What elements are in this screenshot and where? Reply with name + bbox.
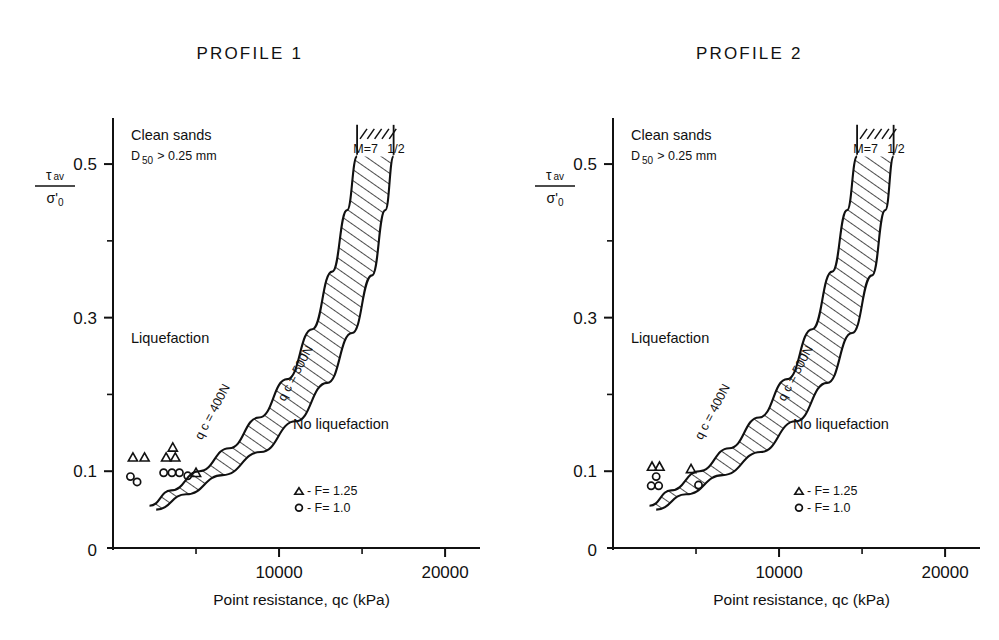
- annotation-magnitude-fraction: 1/2: [387, 142, 404, 156]
- annotation-no-liquefaction: No liquefaction: [293, 416, 389, 432]
- data-point-circle: [652, 473, 659, 480]
- legend-marker-triangle: [295, 488, 303, 495]
- legend-label: - F= 1.0: [806, 501, 849, 515]
- annotation-magnitude: M=7: [853, 142, 878, 156]
- data-point-triangle: [171, 453, 180, 461]
- x-tick-label: 20000: [421, 563, 468, 582]
- chart-svg-profile-2: 0.10.30.501000020000Point resistance, qc…: [500, 0, 999, 640]
- annotation-liquefaction: Liquefaction: [131, 330, 209, 346]
- plot-area: 0.10.30.501000020000Point resistance, qc…: [535, 116, 985, 608]
- data-point-triangle: [654, 462, 663, 470]
- x-tick-label: 10000: [255, 563, 302, 582]
- y-tick-label: 0.3: [573, 309, 597, 328]
- y-tick-label: 0.5: [573, 155, 597, 174]
- x-axis-title: Point resistance, qc (kPa): [213, 591, 390, 608]
- data-point-circle: [647, 482, 654, 489]
- annotation-magnitude: M=7: [353, 142, 378, 156]
- data-point-circle: [160, 469, 167, 476]
- y-axis-denominator: σ'0: [546, 190, 563, 208]
- curve-label-left: q c = 400N: [691, 382, 732, 442]
- data-point-circle: [127, 473, 134, 480]
- data-point-triangle: [128, 453, 137, 461]
- figure-root: PROFILE 1 0.10.30.501000020000Point resi…: [0, 0, 999, 640]
- chart-panel-profile-2: PROFILE 2 0.10.30.501000020000Point resi…: [500, 0, 999, 640]
- x-tick-label: 20000: [921, 563, 968, 582]
- y-tick-label: 0.1: [573, 462, 597, 481]
- chart-svg-profile-1: 0.10.30.501000020000Point resistance, qc…: [0, 0, 499, 640]
- y-tick-label: 0.5: [73, 155, 97, 174]
- data-point-circle: [176, 469, 183, 476]
- data-point-triangle: [140, 453, 149, 461]
- y-tick-label: 0.1: [73, 462, 97, 481]
- plot-area: 0.10.30.501000020000Point resistance, qc…: [35, 116, 485, 608]
- data-point-triangle: [162, 453, 171, 461]
- panel-container: PROFILE 1 0.10.30.501000020000Point resi…: [0, 0, 999, 640]
- x-tick-label: 10000: [755, 563, 802, 582]
- x-axis-title: Point resistance, qc (kPa): [713, 591, 890, 608]
- origin-label: 0: [587, 541, 596, 560]
- origin-label: 0: [88, 541, 97, 560]
- legend-marker-circle: [795, 504, 802, 511]
- legend-marker-triangle: [794, 488, 802, 495]
- y-axis-numerator: τav: [46, 167, 64, 183]
- legend-label: - F= 1.0: [307, 501, 350, 515]
- chart-panel-profile-1: PROFILE 1 0.10.30.501000020000Point resi…: [0, 0, 500, 640]
- y-tick-label: 0.3: [73, 309, 97, 328]
- data-point-circle: [133, 478, 140, 485]
- annotation-clean-sands: Clean sands: [631, 127, 712, 143]
- legend-marker-circle: [296, 504, 303, 511]
- annotation-liquefaction: Liquefaction: [631, 330, 709, 346]
- legend-label: - F= 1.25: [806, 484, 856, 498]
- y-axis-numerator: τav: [545, 167, 563, 183]
- data-point-circle: [655, 482, 662, 489]
- data-point-triangle: [686, 464, 695, 472]
- annotation-magnitude-fraction: 1/2: [887, 142, 904, 156]
- legend-label: - F= 1.25: [307, 484, 357, 498]
- data-point-triangle: [168, 443, 177, 451]
- curve-label-left: q c = 400N: [192, 382, 233, 442]
- y-axis-denominator: σ'0: [47, 190, 64, 208]
- annotation-clean-sands: Clean sands: [131, 127, 212, 143]
- annotation-no-liquefaction: No liquefaction: [793, 416, 889, 432]
- data-point-circle: [168, 469, 175, 476]
